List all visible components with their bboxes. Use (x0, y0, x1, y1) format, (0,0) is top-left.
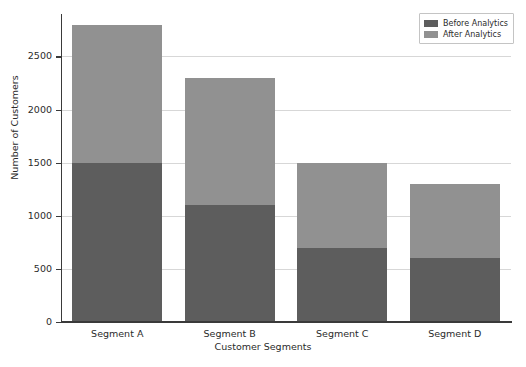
legend-label: Before Analytics (443, 19, 508, 28)
x-tick-label: Segment C (292, 328, 392, 339)
legend-item[interactable]: After Analytics (424, 29, 508, 39)
y-tick-mark (56, 110, 61, 111)
bar-stack[interactable] (72, 14, 162, 322)
bar-stack[interactable] (410, 14, 500, 322)
bar-segment[interactable] (72, 163, 162, 322)
x-tick-label: Segment B (180, 328, 280, 339)
y-tick-label: 2500 (28, 51, 52, 61)
y-axis-spine (61, 14, 62, 322)
y-tick-mark (56, 269, 61, 270)
bar-segment[interactable] (410, 258, 500, 322)
legend-swatch-icon (424, 20, 438, 27)
y-axis-label: Number of Customers (9, 58, 20, 198)
x-axis-label: Customer Segments (0, 341, 526, 352)
bar-stack[interactable] (185, 14, 275, 322)
plot-area (61, 14, 511, 322)
bar-segment[interactable] (185, 78, 275, 205)
x-axis-spine (61, 321, 512, 322)
y-tick-label: 2000 (28, 105, 52, 115)
y-tick-mark (56, 56, 61, 57)
legend-item[interactable]: Before Analytics (424, 18, 508, 28)
legend: Before AnalyticsAfter Analytics (419, 13, 514, 44)
y-tick-mark (56, 163, 61, 164)
bar-segment[interactable] (185, 205, 275, 322)
bar-segment[interactable] (72, 25, 162, 163)
x-tick-label: Segment A (67, 328, 167, 339)
y-tick-label: 500 (34, 264, 52, 274)
x-tick-label: Segment D (405, 328, 505, 339)
y-tick-label: 0 (46, 317, 52, 327)
bar-segment[interactable] (297, 248, 387, 322)
legend-swatch-icon (424, 31, 438, 38)
figure-canvas: 05001000150020002500 Segment ASegment BS… (0, 0, 526, 367)
y-tick-mark (56, 322, 61, 323)
legend-label: After Analytics (443, 30, 501, 39)
y-tick-label: 1000 (28, 211, 52, 221)
y-tick-mark (56, 216, 61, 217)
bar-segment[interactable] (297, 163, 387, 248)
y-tick-label: 1500 (28, 158, 52, 168)
bar-stack[interactable] (297, 14, 387, 322)
bar-segment[interactable] (410, 184, 500, 258)
